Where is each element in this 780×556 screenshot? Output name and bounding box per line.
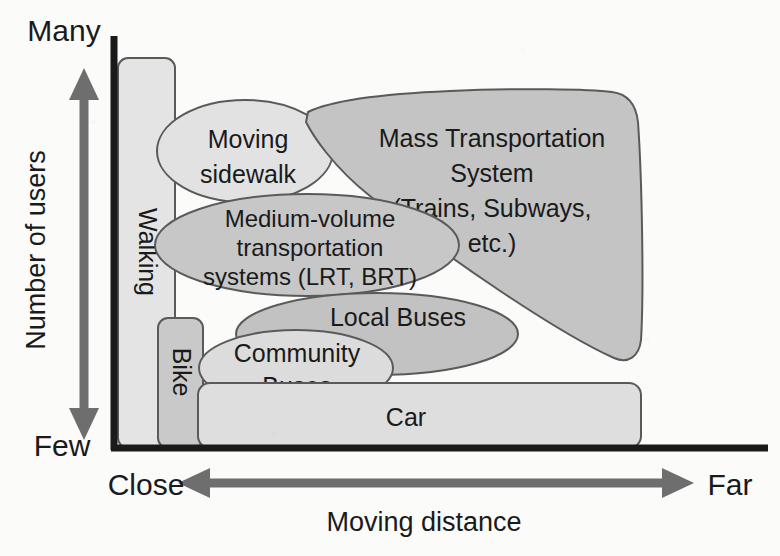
mass-transportation-label-line-2: System	[450, 159, 533, 187]
x-axis-left-label: Close	[108, 468, 185, 501]
region-medium-volume[interactable]: Medium-volume transportation systems (LR…	[155, 194, 459, 296]
car-label: Car	[386, 403, 426, 431]
transport-mode-diagram: Walking Bike Moving sidewalk Mass Transp…	[0, 0, 780, 556]
moving-sidewalk-label-line-2: sidewalk	[200, 160, 296, 188]
local-buses-label: Local Buses	[330, 303, 466, 331]
medium-volume-label-line-1: Medium-volume	[225, 205, 396, 232]
x-axis-arrow	[178, 468, 694, 498]
diagram-canvas: Walking Bike Moving sidewalk Mass Transp…	[0, 0, 780, 556]
moving-sidewalk-label-line-1: Moving	[208, 125, 289, 153]
medium-volume-label-line-3: systems (LRT, BRT)	[203, 263, 417, 290]
bike-label: Bike	[168, 348, 196, 397]
medium-volume-label-line-2: transportation	[237, 234, 384, 261]
mass-transportation-label-line-4: etc.)	[468, 229, 517, 257]
x-axis-title: Moving distance	[326, 507, 521, 537]
y-axis-title: Number of users	[21, 150, 51, 350]
mass-transportation-label-line-1: Mass Transportation	[379, 124, 606, 152]
region-bike[interactable]: Bike	[158, 318, 203, 448]
y-axis-bottom-label: Few	[34, 429, 91, 462]
region-car[interactable]: Car	[198, 383, 641, 448]
y-axis-arrow	[69, 68, 99, 440]
community-buses-label-line-1: Community	[234, 339, 361, 367]
x-axis-right-label: Far	[708, 468, 753, 501]
y-axis-top-label: Many	[27, 14, 100, 47]
